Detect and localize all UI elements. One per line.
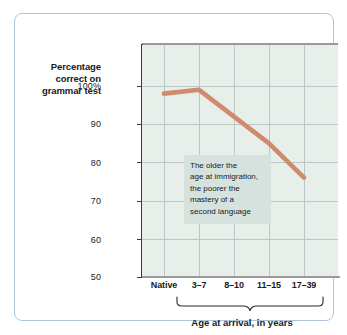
annotation-line-4: mastery of a [190,194,265,205]
gridline-y-100 [142,86,338,87]
annotation-line-5: second language [190,206,265,217]
gridline-y-90 [142,124,338,125]
x-axis-line [142,276,340,278]
x-tick-label-17-39: 17–39 [280,280,328,290]
x-axis-group-brace [175,295,325,313]
annotation-callout: The older the age at immigration, the po… [184,155,271,224]
figure-panel: Percentage correct on grammar test 100% … [14,13,334,321]
y-tick-label-100: 100% [61,81,101,91]
gridline-y-60 [142,239,338,240]
y-axis-title: Percentage correct on grammar test [21,61,101,98]
y-tick-label-90: 90 [61,119,101,129]
y-tick-label-80: 80 [61,158,101,168]
annotation-line-1: The older the [190,160,265,171]
gridline-x-17-39 [304,45,305,277]
annotation-line-3: the poorer the [190,183,265,194]
y-tick-label-50: 50 [61,272,101,282]
y-axis-title-line-1: Percentage [21,61,101,73]
y-tick-label-60: 60 [61,235,101,245]
gridline-x-native [164,45,165,277]
x-axis-caption: Age at arrival, in years [142,317,342,328]
y-tick-label-70: 70 [61,196,101,206]
annotation-line-2: age at immigration, [190,171,265,182]
